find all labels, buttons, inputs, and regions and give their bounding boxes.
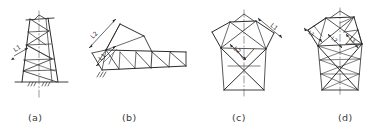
panel-d: L1 L2 L3	[296, 4, 381, 104]
dimension-d-l3: L3	[346, 34, 358, 48]
label-d-l2: L2	[330, 35, 338, 43]
right-arm-lower-c	[266, 33, 274, 49]
dimension-b-l2: L2	[89, 19, 116, 48]
post-b-3	[151, 52, 152, 68]
dimension-c-l2: L2	[230, 44, 246, 60]
panel-a-drawing: L1	[8, 4, 88, 104]
left-arm-web-d	[314, 26, 322, 36]
dimension-c-l1: L1	[258, 18, 282, 38]
leg-c-1	[221, 48, 264, 90]
panel-c: L1 L2	[202, 4, 292, 104]
leg-c-3	[221, 48, 224, 90]
waist-chord-c	[221, 48, 266, 49]
leg-d-4	[358, 44, 362, 90]
diag-b-2	[136, 52, 151, 68]
label-c-l1: L1	[269, 21, 279, 31]
leg-c-4	[264, 49, 266, 90]
diag-b-1	[106, 50, 119, 69]
post-b-4	[169, 52, 170, 67]
cross-c-2	[221, 21, 256, 48]
dimension-d-l1: L1	[304, 28, 322, 42]
panel-a: L1	[8, 4, 88, 104]
low-diag-d-4	[322, 74, 359, 90]
panel-d-drawing: L1 L2 L3	[296, 4, 381, 104]
right-leg-a	[48, 18, 58, 82]
bottom-chord-b	[102, 66, 186, 70]
label-c-l2: L2	[232, 45, 242, 55]
leg-d-3	[318, 46, 322, 90]
strut-a-2	[26, 44, 51, 45]
post-b-2	[135, 52, 136, 68]
caption-c: (c)	[232, 112, 246, 123]
label-d-l3: L3	[348, 35, 356, 43]
web-bracing-a	[23, 19, 57, 82]
caption-b: (b)	[122, 112, 137, 123]
leg-c-2	[224, 49, 266, 90]
r-strut-d-1	[344, 30, 358, 32]
low-diag-d-2	[321, 59, 360, 74]
panel-b: L2 L1	[86, 6, 201, 98]
label-a-l1: L1	[12, 43, 22, 53]
caption-a: (a)	[28, 112, 42, 123]
incline-diag-b-1	[106, 36, 144, 50]
inner-right-leg-a	[46, 19, 52, 82]
base-support-b	[97, 72, 106, 77]
diag-b-5	[120, 52, 135, 68]
post-b-1	[119, 52, 120, 69]
caption-d: (d)	[338, 112, 353, 123]
panel-b-drawing: L2 L1	[86, 6, 201, 98]
left-arm-lower-c	[212, 32, 221, 48]
low-diag-d-3	[321, 74, 358, 90]
strut-d-1	[320, 59, 360, 60]
label-b-l2: L2	[89, 29, 99, 39]
top-chord-b	[106, 50, 186, 52]
incline-chord-lower-b	[144, 36, 152, 52]
figure-canvas: L1	[0, 0, 381, 131]
strut-a-1	[28, 31, 49, 32]
panel-c-drawing: L1 L2	[202, 4, 292, 104]
diag-b-4	[170, 52, 186, 66]
diag-b-3	[152, 52, 169, 67]
incline-small-b	[109, 52, 114, 64]
incline-top-b	[120, 24, 144, 36]
